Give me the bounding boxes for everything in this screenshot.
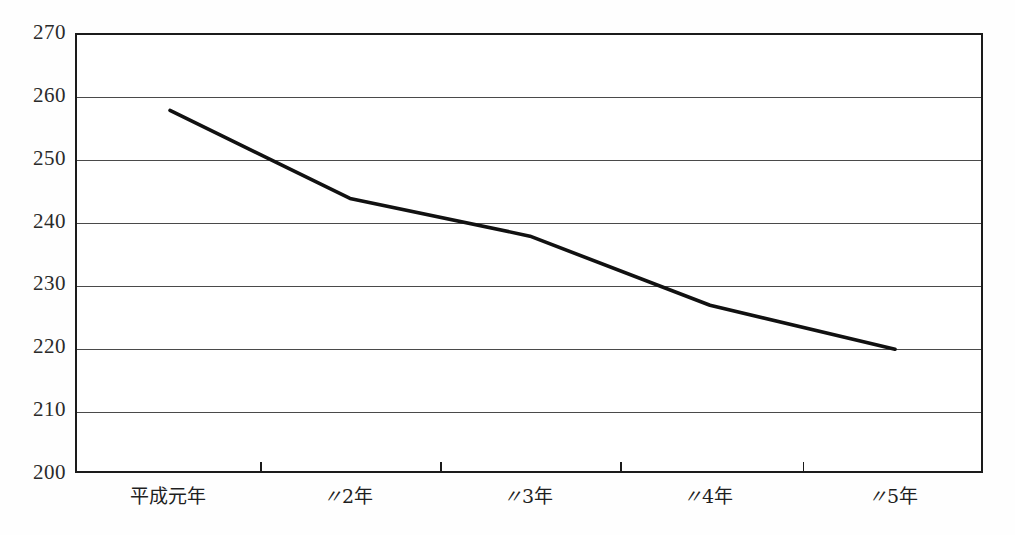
- x-tick-label: 〃4年: [683, 484, 733, 508]
- y-tick-label: 260: [4, 85, 66, 106]
- ditto-mark: 〃: [323, 485, 342, 507]
- y-tick-label: 250: [4, 148, 66, 169]
- y-tick-label: 220: [4, 336, 66, 357]
- ditto-mark: 〃: [868, 485, 887, 507]
- x-tick-label-text: 4年: [702, 485, 733, 507]
- y-axis: 270 260 250 240 230 220 210 200: [0, 0, 66, 535]
- x-tick-label: 〃2年: [323, 484, 373, 508]
- ditto-mark: 〃: [503, 485, 522, 507]
- plot-area: [75, 33, 983, 473]
- y-tick-label: 240: [4, 211, 66, 232]
- x-tick-label: 平成元年: [130, 484, 206, 508]
- y-tick-label: 230: [4, 273, 66, 294]
- y-tick-label: 210: [4, 399, 66, 420]
- series-line: [77, 35, 985, 475]
- x-axis: 平成元年〃2年〃3年〃4年〃5年: [0, 484, 1015, 524]
- x-tick-label-text: 5年: [887, 485, 918, 507]
- y-tick-label: 200: [4, 462, 66, 483]
- x-tick-label-text: 3年: [522, 485, 553, 507]
- ditto-mark: 〃: [683, 485, 702, 507]
- line-chart: 270 260 250 240 230 220 210 200 平成元年〃2年〃…: [0, 0, 1015, 535]
- x-tick-label: 〃5年: [868, 484, 918, 508]
- x-tick-label: 〃3年: [503, 484, 553, 508]
- y-tick-label: 270: [4, 22, 66, 43]
- x-tick-label-text: 2年: [342, 485, 373, 507]
